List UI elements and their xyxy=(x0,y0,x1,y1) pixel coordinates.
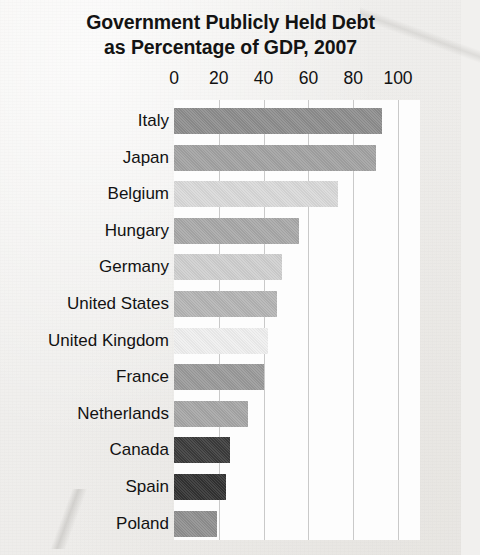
bar-united-states xyxy=(174,291,277,317)
bar-japan xyxy=(174,145,376,171)
bar-row: Netherlands xyxy=(0,401,461,427)
category-label-france: France xyxy=(116,367,169,387)
bar-canada xyxy=(174,437,230,463)
category-label-hungary: Hungary xyxy=(105,221,169,241)
bar-row: France xyxy=(0,364,461,390)
category-label-canada: Canada xyxy=(109,440,169,460)
bar-row: United States xyxy=(0,291,461,317)
bar-row: Hungary xyxy=(0,218,461,244)
category-label-germany: Germany xyxy=(99,257,169,277)
category-label-spain: Spain xyxy=(126,477,169,497)
bar-row: Japan xyxy=(0,145,461,171)
category-label-italy: Italy xyxy=(138,111,169,131)
bar-row: Canada xyxy=(0,437,461,463)
bar-france xyxy=(174,364,264,390)
category-label-japan: Japan xyxy=(123,148,169,168)
category-label-united-kingdom: United Kingdom xyxy=(48,331,169,351)
bar-row: Belgium xyxy=(0,181,461,207)
bar-germany xyxy=(174,254,282,280)
bar-poland xyxy=(174,511,217,537)
category-label-belgium: Belgium xyxy=(108,184,169,204)
bar-row: Poland xyxy=(0,511,461,537)
bar-row: Germany xyxy=(0,254,461,280)
bar-row: Spain xyxy=(0,474,461,500)
bar-spain xyxy=(174,474,226,500)
bar-hungary xyxy=(174,218,299,244)
bar-italy xyxy=(174,108,382,134)
bar-row: United Kingdom xyxy=(0,328,461,354)
category-label-united-states: United States xyxy=(67,294,169,314)
bar-row: Italy xyxy=(0,108,461,134)
bar-belgium xyxy=(174,181,338,207)
bar-netherlands xyxy=(174,401,248,427)
category-label-netherlands: Netherlands xyxy=(77,404,169,424)
category-label-poland: Poland xyxy=(116,514,169,534)
bar-united-kingdom xyxy=(174,328,268,354)
